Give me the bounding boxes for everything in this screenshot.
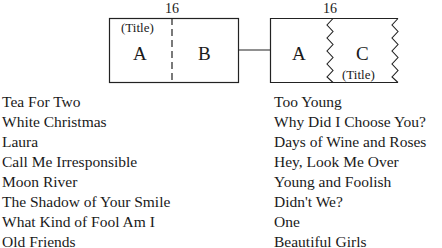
- list-item: Too Young: [274, 92, 426, 112]
- diagram-shapes: [0, 0, 442, 92]
- list-item: Young and Foolish: [274, 172, 426, 192]
- list-item: Call Me Irresponsible: [2, 152, 170, 172]
- left-measure-label: 16: [165, 2, 179, 16]
- list-item: What Kind of Fool Am I: [2, 212, 170, 232]
- list-item: The Shadow of Your Smile: [2, 192, 170, 212]
- left-section-b: B: [198, 44, 211, 63]
- list-item: Why Did I Choose You?: [274, 112, 426, 132]
- right-section-a: A: [292, 44, 306, 63]
- left-section-a: A: [133, 44, 147, 63]
- zigzag-divider-right: [392, 19, 398, 83]
- song-form-diagram: 16 (Title) A B 16 A C (Title): [0, 0, 442, 92]
- list-item: One: [274, 212, 426, 232]
- list-item: Days of Wine and Roses: [274, 132, 426, 152]
- list-item: Old Friends: [2, 232, 170, 248]
- list-item: Tea For Two: [2, 92, 170, 112]
- left-title-label: (Title): [121, 21, 154, 34]
- list-item: Didn't We?: [274, 192, 426, 212]
- song-list-right: Too Young Why Did I Choose You? Days of …: [274, 92, 426, 248]
- list-item: Hey, Look Me Over: [274, 152, 426, 172]
- song-list-left: Tea For Two White Christmas Laura Call M…: [2, 92, 170, 248]
- zigzag-divider-middle: [327, 19, 333, 83]
- right-section-c: C: [356, 44, 369, 63]
- list-item: Moon River: [2, 172, 170, 192]
- right-measure-label: 16: [323, 2, 337, 16]
- list-item: White Christmas: [2, 112, 170, 132]
- list-item: Laura: [2, 132, 170, 152]
- right-title-label: (Title): [342, 68, 375, 81]
- list-item: Beautiful Girls: [274, 232, 426, 248]
